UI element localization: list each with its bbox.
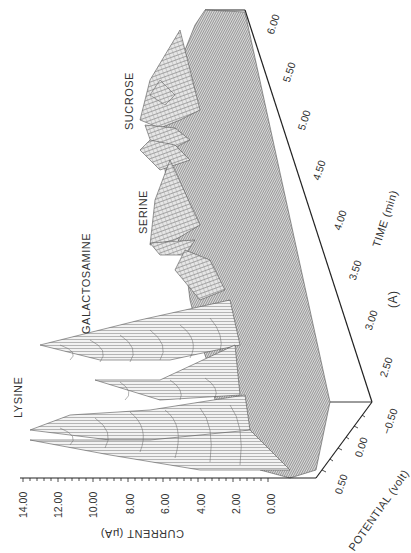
label-serine: SERINE xyxy=(137,190,149,234)
current-tick: 4.00 xyxy=(195,494,207,514)
current-tick: 12.00 xyxy=(52,492,64,518)
current-tick: 8.00 xyxy=(124,494,136,514)
current-tick: 6.00 xyxy=(159,494,171,514)
current-axis-label: CURRENT (μA) xyxy=(100,528,184,540)
current-tick: 10.00 xyxy=(87,492,99,518)
label-sucrose: SUCROSE xyxy=(123,72,135,130)
current-axis xyxy=(20,478,316,482)
label-galactosamine: GALACTOSAMINE xyxy=(80,233,92,334)
panel-label: (A) xyxy=(386,291,400,309)
current-tick: 14.00 xyxy=(17,492,29,518)
current-tick: 2.00 xyxy=(230,494,242,514)
label-lysine: LYSINE xyxy=(12,377,24,418)
current-tick: 0.00 xyxy=(265,494,277,514)
